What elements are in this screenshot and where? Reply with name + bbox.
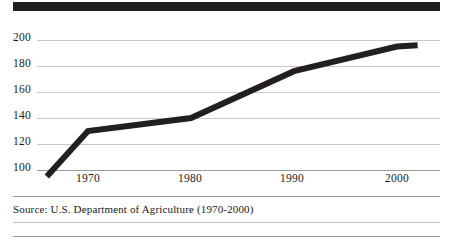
x-axis-line xyxy=(37,170,440,171)
source-rule-top xyxy=(13,196,440,197)
x-tick-label-1990: 1990 xyxy=(262,173,322,185)
y-tick-label-180: 180 xyxy=(13,58,43,70)
data-line-series xyxy=(0,0,460,190)
chart-figure: 200 180 160 140 120 100 1970 1980 1990 2… xyxy=(0,0,460,242)
gridline-200 xyxy=(37,40,440,41)
gridline-160 xyxy=(37,92,440,93)
gridline-140 xyxy=(37,118,440,119)
source-caption: Source: U.S. Department of Agriculture (… xyxy=(13,203,254,216)
x-tick-label-1970: 1970 xyxy=(58,173,118,185)
source-rule-bottom xyxy=(13,236,440,237)
y-tick-label-100: 100 xyxy=(13,162,43,174)
y-tick-label-140: 140 xyxy=(13,110,43,122)
source-rule-middle xyxy=(13,222,440,223)
gridline-180 xyxy=(37,66,440,67)
y-tick-label-200: 200 xyxy=(13,32,43,44)
y-tick-label-160: 160 xyxy=(13,84,43,96)
x-tick-label-2000: 2000 xyxy=(367,173,427,185)
plot-area: 200 180 160 140 120 100 1970 1980 1990 2… xyxy=(0,0,460,190)
series-polyline xyxy=(47,45,418,176)
gridline-120 xyxy=(37,144,440,145)
x-tick-label-1980: 1980 xyxy=(160,173,220,185)
y-tick-label-120: 120 xyxy=(13,136,43,148)
